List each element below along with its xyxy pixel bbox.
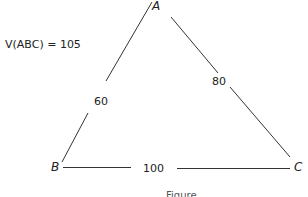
edge-ab-lower xyxy=(62,113,88,162)
triangle-diagram: V(ABC) = 105 A B C 60 80 100 Figure xyxy=(0,0,308,197)
volume-expression: V(ABC) = 105 xyxy=(5,39,81,50)
edge-ab-upper xyxy=(106,2,152,81)
vertex-c-label: C xyxy=(294,161,302,173)
edge-ac-label: 80 xyxy=(212,76,226,87)
edge-ac-lower xyxy=(230,87,290,157)
edge-ab-label: 60 xyxy=(94,96,108,107)
vertex-a-label: A xyxy=(152,0,160,12)
figure-caption: Figure xyxy=(166,191,197,197)
edge-ac-upper xyxy=(171,17,218,73)
edge-bc-label: 100 xyxy=(143,163,164,174)
vertex-b-label: B xyxy=(51,161,59,173)
